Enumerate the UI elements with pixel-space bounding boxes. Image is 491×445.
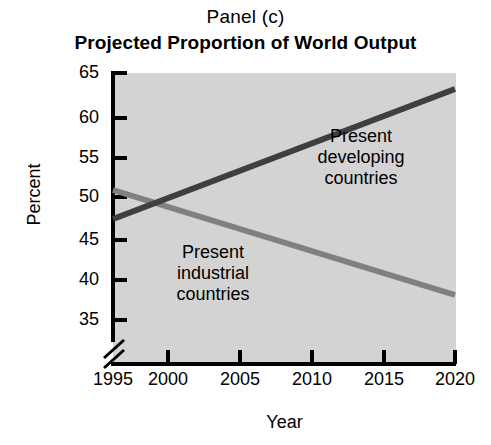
chart-figure: Panel (c) Projected Proportion of World … <box>0 0 491 445</box>
plot-background <box>113 73 456 362</box>
x-tick-label: 2020 <box>420 369 490 390</box>
x-tick-label: 2005 <box>205 369 275 390</box>
y-tick-label: 35 <box>55 309 99 330</box>
x-tick-label: 2000 <box>133 369 203 390</box>
y-tick-label: 65 <box>55 62 99 83</box>
series-label-developing: Present developing countries <box>296 126 426 189</box>
series-label-industrial: Present industrial countries <box>152 242 274 305</box>
x-tick-label: 2015 <box>349 369 419 390</box>
x-tick-label: 2010 <box>277 369 347 390</box>
y-tick-label: 50 <box>55 186 99 207</box>
y-tick-label: 60 <box>55 107 99 128</box>
y-tick-label: 40 <box>55 269 99 290</box>
y-tick-label: 55 <box>55 147 99 168</box>
y-tick-label: 45 <box>55 229 99 250</box>
